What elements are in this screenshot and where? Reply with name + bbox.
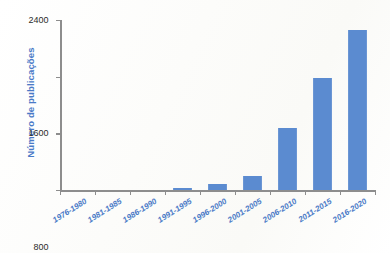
x-tick-mark	[340, 190, 341, 195]
bar	[208, 184, 226, 190]
bar	[173, 188, 191, 190]
y-tick-mark: 800	[56, 133, 61, 134]
y-tick-mark: 2400	[56, 20, 61, 21]
x-tick-mark	[130, 190, 131, 195]
y-tick-label: 800	[33, 242, 48, 252]
x-axis-line	[60, 190, 375, 192]
bar	[348, 30, 366, 190]
y-axis-line	[60, 20, 62, 190]
bar-chart-figure: Número de publicações 080016002400 1976-…	[0, 0, 390, 253]
plot-area: 080016002400	[60, 20, 375, 190]
x-tick-mark	[60, 190, 61, 195]
bar	[243, 176, 261, 190]
y-tick-label: 2400	[28, 15, 48, 25]
x-tick-mark	[375, 190, 376, 195]
x-tick-label: 1981-1985	[84, 197, 123, 226]
x-tick-label: 1986-1990	[119, 197, 158, 226]
x-tick-label: 1976-1980	[49, 197, 88, 226]
bar	[278, 128, 296, 190]
bar	[313, 78, 331, 190]
x-tick-mark	[305, 190, 306, 195]
x-tick-label: 2006-2010	[259, 197, 298, 226]
x-tick-mark	[200, 190, 201, 195]
x-tick-label: 1996-2000	[189, 197, 228, 226]
x-tick-mark	[270, 190, 271, 195]
x-tick-mark	[165, 190, 166, 195]
x-tick-mark	[235, 190, 236, 195]
x-tick-label: 2016-2020	[329, 197, 368, 226]
x-tick-label: 2011-2015	[294, 197, 333, 226]
y-tick-label: 1600	[28, 128, 48, 138]
x-tick-mark	[95, 190, 96, 195]
x-tick-label: 2001-2005	[224, 197, 263, 226]
y-axis-title: Número de publicações	[25, 28, 36, 178]
y-tick-mark: 1600	[56, 77, 61, 78]
x-tick-label: 1991-1995	[154, 197, 193, 226]
